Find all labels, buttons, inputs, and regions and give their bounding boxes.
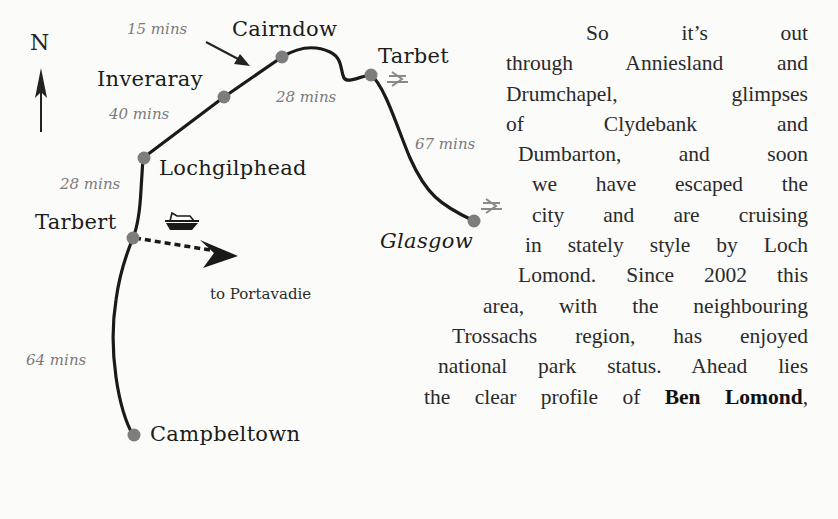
place-label-tarbert: Tarbert	[35, 210, 116, 234]
north-arrow-icon	[35, 68, 47, 132]
stop-tarbert	[127, 232, 140, 245]
stop-campbeltown	[128, 429, 141, 442]
text-segment: ,	[803, 385, 808, 409]
place-label-inveraray: Inveraray	[97, 67, 203, 91]
place-label-campbeltown: Campbeltown	[150, 422, 300, 446]
ferry-destination-label: to Portavadie	[210, 285, 311, 303]
pointer-arrow-icon	[206, 42, 250, 66]
bold-term-ben-lomond: Ben Lomond	[665, 385, 803, 409]
text-line: So it’s out	[586, 18, 808, 48]
body-text: So it’s out through Anniesland and Drumc…	[424, 18, 808, 412]
text-line: Trossachs region, has enjoyed	[452, 321, 808, 351]
time-label-64: 64 mins	[26, 351, 86, 369]
ferry-icon	[165, 213, 199, 230]
text-line: we have escaped the	[532, 169, 808, 199]
text-segment: the clear profile of	[424, 385, 665, 409]
place-label-cairndow: Cairndow	[232, 17, 337, 41]
text-line: Drumchapel, glimpses	[506, 79, 808, 109]
text-line: Lomond. Since 2002 this	[518, 260, 808, 290]
text-line: of Clydebank and	[506, 109, 808, 139]
time-label-40: 40 mins	[109, 105, 169, 123]
rail-icon	[387, 72, 408, 86]
text-line: Dumbarton, and soon	[518, 139, 808, 169]
text-line-final: the clear profile of Ben Lomond,	[424, 382, 808, 412]
time-label-28-lochgilphead-tarbert: 28 mins	[60, 175, 120, 193]
stop-cairndow	[276, 51, 289, 64]
text-line: national park status. Ahead lies	[438, 351, 808, 381]
text-line: in stately style by Loch	[525, 230, 808, 260]
stop-lochgilphead	[138, 152, 151, 165]
text-line: area, with the neighbouring	[483, 291, 808, 321]
north-label: N	[30, 30, 49, 55]
place-label-lochgilphead: Lochgilphead	[159, 156, 307, 180]
ferry-route	[135, 238, 238, 268]
stop-inveraray	[218, 91, 231, 104]
time-label-15: 15 mins	[127, 20, 187, 38]
time-label-28-cairndow-tarbet: 28 mins	[276, 88, 336, 106]
text-line: through Anniesland and	[506, 48, 808, 78]
stop-tarbet	[365, 69, 378, 82]
text-line: city and are cruising	[532, 200, 808, 230]
